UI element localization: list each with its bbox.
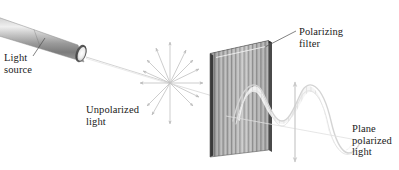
label-plane-polarized-light: Plane polarized light bbox=[352, 123, 392, 158]
label-unpolarized-light: Unpolarized light bbox=[86, 104, 139, 127]
leader-polarizing-filter bbox=[265, 31, 296, 47]
label-light-source: Light source bbox=[4, 52, 32, 75]
polarization-diagram: Light source Unpolarized light Polarizin… bbox=[0, 0, 399, 170]
unpolarized-starburst bbox=[140, 42, 203, 124]
label-polarizing-filter: Polarizing filter bbox=[299, 26, 343, 49]
